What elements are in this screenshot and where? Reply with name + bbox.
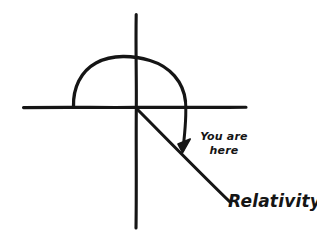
semicircular-arc: [73, 56, 185, 106]
sketch-canvas: You are here Relativity: [0, 0, 317, 238]
you-are-here-line-1: You are: [200, 130, 247, 143]
relativity-label: Relativity: [228, 191, 317, 211]
you-are-here-annotation: You are here: [196, 130, 252, 158]
you-are-here-line-2: here: [196, 144, 252, 158]
